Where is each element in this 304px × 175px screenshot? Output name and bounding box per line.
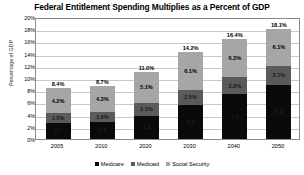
y-tick-label: 20% [9,15,35,21]
bar-segment-social-security[interactable]: 4.3% [90,86,115,112]
bar-segment-medicare[interactable]: 7.3 [222,94,247,139]
y-tick-label: 6% [9,100,35,106]
bar-segment-social-security[interactable]: 6.3% [222,39,247,77]
x-tick-label: 2030 [170,143,210,150]
bar-segment-medicaid[interactable]: 1.5% [46,113,71,122]
legend-swatch-icon [131,162,135,166]
bar-segment-social-security[interactable]: 6.1% [178,52,203,89]
y-tick-label: 16% [9,39,35,45]
bar-segment-medicare[interactable]: 8.9 [266,85,291,139]
chart-title: Federal Entitlement Spending Multiplies … [0,2,304,12]
bar-segment-value-label: 6.1% [273,44,286,50]
bar-segment-value-label: 2.5% [184,94,197,100]
gridline [36,104,299,105]
bar-segment-value-label: 1.6% [96,114,109,120]
legend-item-medicare[interactable]: Medicare [95,161,124,167]
gridline [36,68,299,69]
y-tick-label: 18% [9,27,35,33]
bar-segment-medicaid[interactable]: 2.1% [134,103,159,116]
bar-segment-social-security[interactable]: 6.1% [266,29,291,66]
bar-segment-medicare[interactable]: 2.8 [90,122,115,139]
bar-segment-medicaid[interactable]: 1.6% [90,112,115,122]
plot-area: 4.2%1.5%2.78.4%4.3%1.6%2.88.7%5.1%2.1%3.… [35,18,300,140]
gridline [36,117,299,118]
chart-legend: MedicareMedicaidSocial Security [0,161,304,167]
bar-segment-value-label: 8.9 [275,109,283,115]
legend-swatch-icon [95,162,99,166]
bar-segment-value-label: 4.3% [96,96,109,102]
x-tick-label: 2040 [214,143,254,150]
gridline [36,56,299,57]
y-tick-label: 12% [9,64,35,70]
bar-segment-social-security[interactable]: 5.1% [134,72,159,103]
legend-item-medicaid[interactable]: Medicaid [131,161,159,167]
bar-total-label: 18.1% [271,22,287,28]
bar-segment-value-label: 3.8 [143,124,151,130]
bar-segment-value-label: 2.7 [54,128,62,134]
gridline [36,92,299,93]
legend-item-social-security[interactable]: Social Security [166,161,209,167]
y-tick-label: 0% [9,137,35,143]
bar-segment-value-label: 3.1% [273,72,286,78]
bar-segment-value-label: 6.1% [184,68,197,74]
x-tick-label: 2020 [125,143,165,150]
chart-container: Federal Entitlement Spending Multiplies … [0,0,304,175]
y-tick-label: 10% [9,76,35,82]
bar-segment-medicaid[interactable]: 2.8% [222,77,247,94]
bar-segment-social-security[interactable]: 4.2% [46,88,71,114]
bar-segment-medicaid[interactable]: 2.5% [178,90,203,105]
x-tick-label: 2005 [37,143,77,150]
bar-segment-medicaid[interactable]: 3.1% [266,66,291,85]
bar-segment-medicare[interactable]: 3.8 [134,116,159,139]
bar-segment-medicare[interactable]: 5.6 [178,105,203,139]
bar-segment-value-label: 5.1% [140,84,153,90]
bar-segment-value-label: 2.1% [140,106,153,112]
legend-label: Medicaid [137,161,159,167]
y-tick-label: 4% [9,113,35,119]
bar-group[interactable]: 5.1%2.1%3.811.0% [134,72,159,139]
legend-swatch-icon [166,162,170,166]
bar-segment-value-label: 2.8 [98,127,106,133]
legend-label: Medicare [101,161,124,167]
x-tick-label: 2050 [258,143,298,150]
bar-group[interactable]: 4.2%1.5%2.78.4% [46,88,71,139]
bar-total-label: 11.0% [139,65,155,71]
y-tick-label: 2% [9,125,35,131]
gridline [36,129,299,130]
gridline [36,43,299,44]
bar-total-label: 8.4% [52,81,65,87]
y-tick-label: 8% [9,88,35,94]
bar-group[interactable]: 6.3%2.8%7.316.4% [222,39,247,139]
bar-segment-medicare[interactable]: 2.7 [46,123,71,139]
bar-segment-value-label: 4.2% [52,98,65,104]
bar-group[interactable]: 6.1%2.5%5.614.2% [178,52,203,139]
bar-total-label: 8.7% [96,79,109,85]
bar-group[interactable]: 6.1%3.1%8.918.1% [266,29,291,139]
gridline [36,80,299,81]
x-tick-label: 2010 [81,143,121,150]
bar-total-label: 16.4% [227,32,243,38]
bar-group[interactable]: 4.3%1.6%2.88.7% [90,86,115,139]
y-tick-label: 14% [9,52,35,58]
bar-segment-value-label: 2.8% [228,83,241,89]
bar-total-label: 14.2% [183,45,199,51]
bar-segment-value-label: 6.3% [228,55,241,61]
legend-label: Social Security [172,161,209,167]
gridline [36,31,299,32]
bar-segment-value-label: 7.3 [231,114,239,120]
bar-segment-value-label: 1.5% [52,115,65,121]
bar-segment-value-label: 5.6 [187,119,195,125]
